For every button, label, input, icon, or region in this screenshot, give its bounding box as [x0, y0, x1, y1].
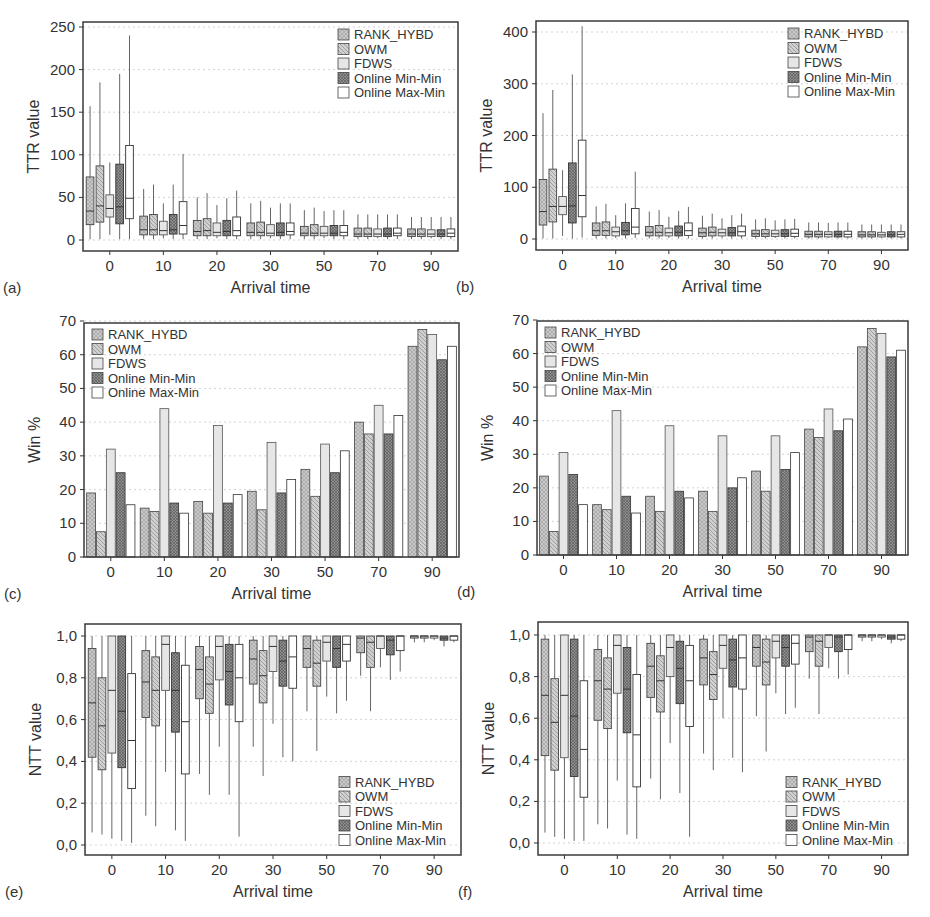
x-tick-label: 90 [873, 861, 890, 878]
box-plot [753, 635, 761, 716]
y-axis-title: NTT value [480, 702, 497, 776]
y-axis: 0,00,20,40,60,81,0 [509, 626, 538, 851]
legend-item: OWM [786, 789, 835, 804]
x-axis: 0102030507090 [560, 855, 890, 878]
legend-item: RANK_HYBD [786, 775, 881, 790]
legend-swatch-icon [786, 835, 797, 846]
box-plot [897, 635, 905, 641]
box-plot [868, 635, 876, 641]
box-plot [792, 635, 800, 708]
box-plot [815, 635, 823, 714]
box-plot [647, 635, 655, 779]
y-tick-label: 0,8 [509, 668, 530, 685]
y-tick-label: 0,4 [509, 751, 530, 768]
legend-label: Online Min-Min [802, 818, 889, 833]
box-plot [686, 635, 694, 837]
box-plot [700, 635, 708, 754]
y-tick-label: 0,2 [509, 792, 530, 809]
legend-item: Online Max-Min [786, 833, 893, 848]
y-tick-label: 1,0 [509, 626, 530, 643]
box-plot [739, 635, 747, 772]
box-plot [835, 635, 843, 679]
legend-label: RANK_HYBD [802, 775, 881, 790]
box-plot [676, 635, 684, 793]
box-plot [709, 635, 717, 770]
x-tick-label: 70 [820, 861, 837, 878]
box-plot [719, 635, 727, 718]
legend-label: Online Max-Min [802, 833, 893, 848]
box-plot [561, 635, 569, 839]
box-plot [657, 635, 665, 799]
box-plot [844, 635, 852, 675]
legend-label: FDWS [802, 804, 841, 819]
box-plot [570, 635, 578, 841]
x-tick-label: 0 [560, 861, 568, 878]
box-plot [805, 635, 813, 679]
box-plot [888, 635, 896, 643]
legend-swatch-icon [786, 820, 797, 831]
box-plot [623, 635, 631, 835]
x-axis-title: Arrival time [683, 883, 763, 900]
plot-area [541, 635, 905, 841]
box-plot [633, 635, 641, 839]
box-plot [825, 635, 833, 668]
box-plot [580, 635, 588, 841]
box-plot [666, 635, 674, 743]
legend-swatch-icon [786, 806, 797, 817]
box-plot [782, 635, 790, 714]
box-plot [878, 635, 886, 639]
box-plot [613, 635, 621, 781]
x-tick-label: 30 [715, 861, 732, 878]
box-plot [594, 635, 602, 824]
box-plot [551, 635, 559, 837]
box-plot [762, 635, 770, 751]
x-tick-label: 10 [609, 861, 626, 878]
y-tick-label: 0,6 [509, 709, 530, 726]
x-tick-label: 50 [768, 861, 785, 878]
legend-swatch-icon [786, 791, 797, 802]
box-plot [772, 635, 780, 693]
box-plot [604, 635, 612, 828]
box-plot [729, 635, 737, 758]
legend: RANK_HYBDOWMFDWSOnline Min-MinOnline Max… [786, 775, 893, 848]
box-plot [541, 635, 549, 833]
chart-svg-f: 0,00,20,40,60,81,00102030507090RANK_HYBD… [0, 0, 930, 917]
legend-item: Online Min-Min [786, 818, 889, 833]
legend-label: OWM [802, 789, 835, 804]
chart-panel-f: 0,00,20,40,60,81,00102030507090RANK_HYBD… [0, 0, 930, 917]
y-tick-label: 0,0 [509, 834, 530, 851]
legend-swatch-icon [786, 777, 797, 788]
x-tick-label: 20 [662, 861, 679, 878]
legend-item: FDWS [786, 804, 841, 819]
panel-label: (f) [458, 883, 472, 900]
box-plot [858, 635, 866, 641]
